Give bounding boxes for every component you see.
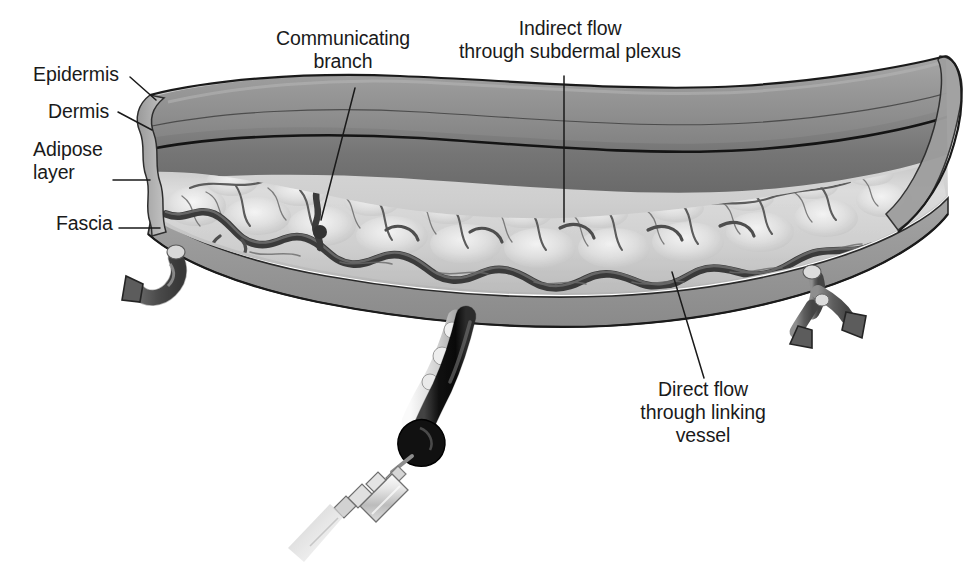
label-fascia: Fascia [56, 212, 113, 235]
right-stump-vein [803, 265, 821, 279]
left-stump-cut-end [122, 276, 143, 302]
anatomical-illustration [0, 0, 980, 570]
syringe-plunger [288, 504, 344, 562]
syringe [288, 456, 412, 562]
communicating-branch-node [313, 225, 327, 239]
label-indirect-flow: Indirect flow through subdermal plexus [448, 17, 692, 63]
perforator-pedicle [288, 316, 470, 562]
label-adipose-layer: Adipose layer [33, 138, 103, 184]
skin-flap-body [130, 52, 970, 337]
right-stump-vein-node [815, 294, 829, 306]
skin-flap-diagram: Epidermis Dermis Adipose layer Fascia Co… [0, 0, 980, 570]
label-dermis: Dermis [48, 100, 109, 123]
right-stump-cut-end-a [842, 312, 866, 338]
label-direct-flow: Direct flow through linking vessel [615, 378, 791, 447]
left-vessel-stump [122, 245, 185, 302]
label-epidermis: Epidermis [33, 63, 119, 86]
left-stump-vein [167, 245, 185, 259]
leader-epidermis [130, 77, 156, 100]
label-communicating-branch: Communicating branch [268, 27, 418, 73]
